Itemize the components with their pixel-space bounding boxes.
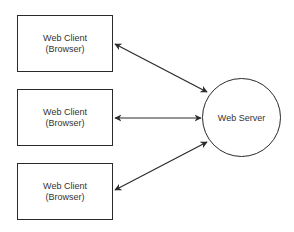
client-label-line1: Web Client: [43, 181, 87, 192]
web-client-box-2: Web Client (Browser): [17, 89, 113, 146]
client-label-line2: (Browser): [45, 44, 84, 55]
client-label-line1: Web Client: [43, 33, 87, 44]
arrow-client-1-server: [115, 44, 207, 92]
server-label: Web Server: [218, 113, 265, 123]
client-label-line2: (Browser): [45, 118, 84, 129]
web-client-box-1: Web Client (Browser): [17, 15, 113, 72]
web-server-node: Web Server: [202, 78, 281, 157]
client-label-line2: (Browser): [45, 192, 84, 203]
web-client-box-3: Web Client (Browser): [17, 163, 113, 220]
arrow-client-3-server: [115, 142, 207, 190]
client-label-line1: Web Client: [43, 107, 87, 118]
diagram-canvas: Web Client (Browser) Web Client (Browser…: [0, 0, 294, 232]
